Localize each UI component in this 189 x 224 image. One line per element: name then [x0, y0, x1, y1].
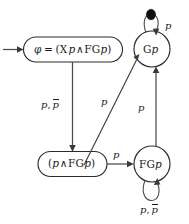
edge-start-to-phi: [3, 46, 24, 53]
pfgp-fg-operator: FG: [68, 157, 84, 169]
edge-fgp-self-letter-2-negated: p: [152, 205, 158, 215]
node-pFGp-label: (p∧FGp): [48, 158, 95, 169]
edge-label-phi-to-pFGp: p,p: [41, 100, 59, 110]
edge-phi-pfgp-comma: ,: [47, 99, 50, 110]
gp-var: p: [152, 43, 159, 55]
edge-label-pFGp-to-Gp: p: [101, 97, 107, 107]
edge-label-FGp-self-loop: p,p: [140, 205, 158, 215]
node-FGp-label: FGp: [139, 159, 162, 170]
phi-close-paren: ): [107, 43, 111, 55]
phi-symbol: φ: [34, 43, 42, 55]
pfgp-var-1: p: [52, 157, 59, 169]
pfgp-and-operator: ∧: [60, 157, 68, 169]
accepting-state-marker: [146, 9, 155, 19]
diagram-graph: [0, 0, 189, 224]
edge-pfgp-fgp-letter: p: [113, 149, 119, 160]
pfgp-close-paren: ): [91, 157, 95, 169]
edge-label-pFGp-to-FGp: p: [113, 150, 119, 160]
edge-fgp-self-comma: ,: [146, 204, 149, 215]
node-Gp-label: Gp: [143, 44, 159, 55]
edge-phi-to-pFGp: [69, 62, 76, 152]
next-operator: X: [60, 43, 68, 55]
edge-label-Gp-self-loop: p: [165, 21, 171, 31]
phi-equals: =: [44, 43, 53, 55]
fgp-fg-operator: FG: [139, 158, 155, 170]
edge-pfgp-gp-letter: p: [101, 96, 107, 107]
phi-var-1: p: [69, 43, 76, 55]
diagram-canvas: φ=(Xp∧FGp) (p∧FGp) Gp FGp p,p p p p p p,…: [0, 0, 189, 224]
fg-operator: FG: [84, 43, 100, 55]
edge-pFGp-to-Gp: [84, 54, 140, 165]
edge-fgp-gp-letter: p: [138, 102, 144, 113]
edge-FGp-to-Gp: [153, 66, 160, 146]
edge-phi-pfgp-letter-2-negated: p: [53, 100, 59, 110]
g-operator: G: [143, 43, 152, 55]
edge-pFGp-to-FGp: [107, 161, 134, 168]
node-phi-label: φ=(Xp∧FGp): [34, 44, 112, 55]
fgp-var: p: [155, 158, 162, 170]
edge-gp-self-letter: p: [165, 20, 171, 31]
phi-and-operator: ∧: [76, 43, 84, 55]
edge-label-FGp-to-Gp: p: [138, 103, 144, 113]
